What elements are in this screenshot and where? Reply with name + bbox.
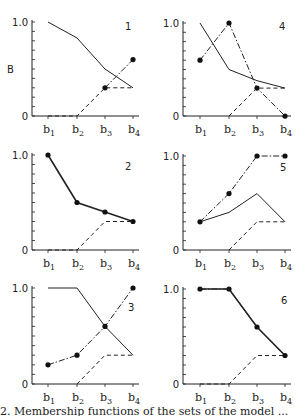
series-dashed bbox=[200, 356, 285, 385]
data-point bbox=[130, 219, 135, 224]
figure-caption: 2. Membership functions of the sets of t… bbox=[0, 405, 305, 416]
data-point bbox=[226, 191, 231, 196]
x-tick-label: b3 bbox=[252, 123, 264, 138]
y-tick-label-top: 1.0 bbox=[163, 284, 179, 295]
data-point bbox=[130, 57, 135, 62]
x-tick-label: b4 bbox=[280, 257, 292, 272]
chart-panel-3: 1.00b1b2b3b43 bbox=[12, 283, 140, 406]
x-tick-label: b1 bbox=[195, 123, 207, 138]
y-tick-label-zero: 0 bbox=[173, 111, 179, 122]
x-tick-label: b2 bbox=[224, 391, 236, 406]
x-tick-label: b3 bbox=[100, 257, 112, 272]
series-solid bbox=[200, 289, 285, 356]
series-solid bbox=[48, 22, 133, 88]
data-point bbox=[45, 152, 50, 157]
panel-number: 4 bbox=[279, 21, 285, 32]
series-dashed bbox=[77, 355, 133, 384]
x-tick-label: b1 bbox=[195, 391, 207, 406]
x-tick-label: b2 bbox=[224, 257, 236, 272]
data-point bbox=[282, 113, 287, 118]
data-point bbox=[130, 285, 135, 290]
x-tick-label: b3 bbox=[100, 391, 112, 406]
data-point bbox=[282, 153, 287, 158]
series-solid bbox=[48, 155, 133, 222]
y-tick-label-top: 1.0 bbox=[163, 151, 179, 162]
data-point bbox=[226, 20, 231, 25]
series-dashed bbox=[48, 222, 133, 251]
data-point bbox=[197, 219, 202, 224]
panel-number: 6 bbox=[281, 295, 287, 306]
series-dash-dot bbox=[48, 288, 133, 365]
x-tick-label: b2 bbox=[72, 123, 84, 138]
series-solid bbox=[48, 288, 133, 355]
data-point bbox=[45, 362, 50, 367]
y-tick-label-top: 1.0 bbox=[12, 283, 28, 294]
y-tick-label-top: 1.0 bbox=[12, 150, 28, 161]
data-point bbox=[102, 324, 107, 329]
data-point bbox=[197, 58, 202, 63]
x-tick-label: b1 bbox=[43, 123, 55, 138]
x-tick-label: b1 bbox=[195, 257, 207, 272]
x-tick-label: b4 bbox=[280, 123, 292, 138]
x-tick-label: b1 bbox=[43, 391, 55, 406]
y-tick-label-zero: 0 bbox=[22, 379, 28, 390]
panel-number: 5 bbox=[280, 162, 286, 173]
x-tick-label: b1 bbox=[43, 257, 55, 272]
series-dash-dot bbox=[200, 289, 285, 356]
x-tick-label: b3 bbox=[252, 257, 264, 272]
x-tick-label: b3 bbox=[100, 123, 112, 138]
series-dashed bbox=[48, 88, 133, 116]
y-tick-label-zero: 0 bbox=[22, 111, 28, 122]
x-tick-label: b4 bbox=[280, 391, 292, 406]
x-tick-label: b4 bbox=[128, 391, 140, 406]
chart-panel-6: 1.00b1b2b3b46 bbox=[163, 284, 292, 406]
y-tick-label-top: 1.0 bbox=[12, 17, 28, 28]
x-tick-label: b4 bbox=[128, 257, 140, 272]
data-point bbox=[74, 353, 79, 358]
y-tick-label-top: 1.0 bbox=[163, 18, 179, 29]
chart-panel-4: 1.00b1b2b3b44 bbox=[163, 18, 292, 138]
chart-panel-2: 1.00b1b2b3b42 bbox=[12, 150, 140, 272]
data-point bbox=[102, 209, 107, 214]
data-point bbox=[254, 153, 259, 158]
x-tick-label: b2 bbox=[72, 257, 84, 272]
panel-number: 3 bbox=[128, 302, 134, 313]
panel-number: 2 bbox=[125, 161, 131, 172]
chart-panel-1: 1.00b1b2b3b4B1 bbox=[7, 17, 140, 138]
data-point bbox=[74, 200, 79, 205]
series-dash-dot bbox=[105, 60, 133, 88]
y-tick-label-zero: 0 bbox=[22, 245, 28, 256]
series-dash-dot bbox=[200, 156, 285, 222]
chart-panel-5: 1.00b1b2b3b45 bbox=[163, 151, 292, 272]
x-tick-label: b2 bbox=[224, 123, 236, 138]
series-solid bbox=[200, 194, 285, 222]
series-dash-dot bbox=[200, 23, 285, 116]
x-tick-label: b2 bbox=[72, 391, 84, 406]
panel-number: 1 bbox=[125, 21, 131, 32]
series-dashed bbox=[229, 222, 285, 250]
y-tick-label-zero: 0 bbox=[173, 245, 179, 256]
x-tick-label: b3 bbox=[252, 391, 264, 406]
figure-six-panels: 1.00b1b2b3b4B11.00b1b2b3b441.00b1b2b3b42… bbox=[0, 0, 305, 416]
y-axis-label: B bbox=[7, 64, 14, 75]
y-tick-label-zero: 0 bbox=[173, 379, 179, 390]
x-tick-label: b4 bbox=[128, 123, 140, 138]
series-dashed bbox=[229, 88, 285, 116]
